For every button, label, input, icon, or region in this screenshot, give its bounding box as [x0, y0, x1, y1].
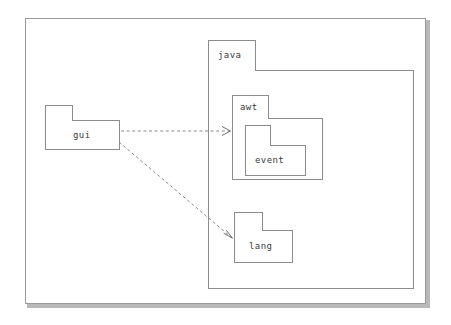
diagram-canvas: java awt event lang gui — [0, 0, 451, 325]
package-gui-tab — [45, 105, 73, 121]
package-lang-tab — [234, 212, 263, 231]
package-event-tab — [245, 125, 271, 146]
package-java-label: java — [218, 51, 241, 60]
package-gui-label: gui — [73, 131, 90, 140]
package-awt-label: awt — [240, 103, 257, 112]
package-event-label: event — [255, 156, 284, 165]
package-lang-label: lang — [249, 242, 272, 251]
